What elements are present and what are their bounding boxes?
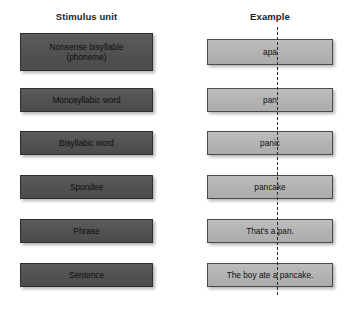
figure-row: Spondee pancake xyxy=(0,175,359,205)
stimulus-unit-figure: Stimulus unit Example Nonsense bisyllabl… xyxy=(0,0,359,324)
figure-row: Bisyllabic word panic xyxy=(0,131,359,161)
stimulus-box-label: Monosyllabic word xyxy=(48,95,124,106)
example-box-the-boy-ate-a-pancake: The boy ate a pancake. xyxy=(207,263,333,287)
vertical-dashed-alignment-line xyxy=(277,27,278,295)
stimulus-box-phrase: Phrase xyxy=(20,219,153,243)
stimulus-box-label: Bisyllabic word xyxy=(55,138,118,149)
stimulus-box-label: Sentence xyxy=(65,270,108,281)
example-box-label: That's a pan. xyxy=(242,226,298,237)
figure-row: Nonsense bisyllable (phoneme) apa xyxy=(0,33,359,63)
stimulus-box-bisyllabic-word: Bisyllabic word xyxy=(20,131,153,155)
figure-row: Phrase That's a pan. xyxy=(0,219,359,249)
example-box-panic: panic xyxy=(207,131,333,155)
example-box-label: pancake xyxy=(250,182,289,193)
column-header-example: Example xyxy=(207,11,333,22)
example-box-label: The boy ate a pancake. xyxy=(223,270,318,281)
column-header-stimulus-unit: Stimulus unit xyxy=(20,11,153,22)
stimulus-box-sentence: Sentence xyxy=(20,263,153,287)
example-box-pan: pan xyxy=(207,88,333,112)
example-box-apa: apa xyxy=(207,39,333,65)
stimulus-box-label-line2: (phoneme) xyxy=(66,52,106,62)
stimulus-box-label: Phrase xyxy=(69,226,103,237)
figure-row: Sentence The boy ate a pancake. xyxy=(0,263,359,293)
example-box-pancake: pancake xyxy=(207,175,333,199)
stimulus-box-monosyllabic-word: Monosyllabic word xyxy=(20,88,153,112)
stimulus-box-label: Spondee xyxy=(66,182,107,193)
stimulus-box-nonsense-bisyllable: Nonsense bisyllable (phoneme) xyxy=(20,33,153,71)
example-box-thats-a-pan: That's a pan. xyxy=(207,219,333,243)
figure-row: Monosyllabic word pan xyxy=(0,88,359,118)
stimulus-box-label: Nonsense bisyllable (phoneme) xyxy=(46,42,128,63)
stimulus-box-label-line1: Nonsense bisyllable xyxy=(50,42,124,52)
example-box-label: panic xyxy=(256,138,284,149)
stimulus-box-spondee: Spondee xyxy=(20,175,153,199)
